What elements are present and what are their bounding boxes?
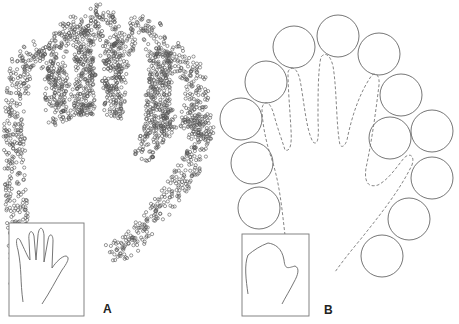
panel-b-inset-box bbox=[242, 234, 309, 316]
receptive-field-circle bbox=[245, 61, 287, 103]
receptive-field-circle bbox=[238, 187, 280, 229]
figure-canvas bbox=[0, 0, 459, 324]
receptive-field-circle bbox=[411, 110, 453, 152]
receptive-field-circle bbox=[317, 15, 359, 57]
receptive-field-circle bbox=[361, 235, 403, 277]
receptive-field-circle bbox=[358, 33, 400, 75]
receptive-field-circle bbox=[231, 142, 273, 184]
receptive-field-circle bbox=[220, 98, 262, 140]
receptive-field-circle bbox=[273, 26, 315, 68]
receptive-field-circle bbox=[411, 157, 453, 199]
panel-a-label: A bbox=[103, 302, 112, 316]
receptive-field-circle bbox=[380, 74, 422, 116]
panel-b-label: B bbox=[324, 303, 333, 317]
receptive-field-circle bbox=[369, 117, 411, 159]
receptive-field-circle bbox=[388, 198, 430, 240]
